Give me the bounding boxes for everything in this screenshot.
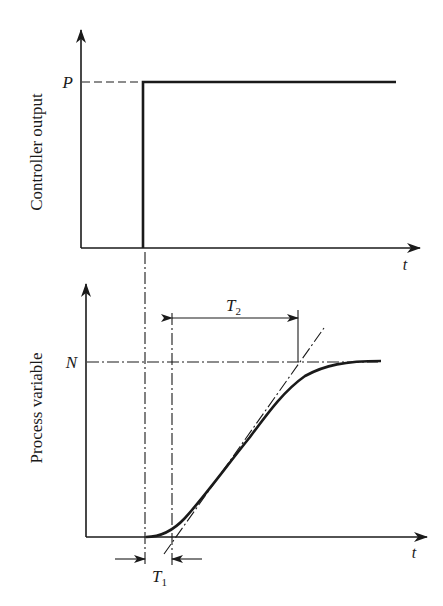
top-x-axis-label: t	[403, 256, 408, 273]
controller-step-output	[143, 82, 396, 248]
process-reaction-curve	[146, 361, 381, 537]
bottom-y-axis-label: Process variable	[27, 353, 46, 464]
diagram-canvas: P t Controller output N T2 T1 t Process …	[0, 0, 443, 606]
bottom-panel: N T2 T1 t Process variable	[27, 284, 427, 588]
t2-label: T2	[226, 296, 241, 317]
top-panel: P t Controller output	[27, 30, 420, 273]
t1-label: T1	[152, 567, 167, 588]
top-y-axis-label: Controller output	[27, 93, 46, 211]
n-level-label: N	[65, 353, 79, 372]
bottom-x-axis-label: t	[412, 544, 417, 561]
p-level-label: P	[62, 73, 73, 92]
